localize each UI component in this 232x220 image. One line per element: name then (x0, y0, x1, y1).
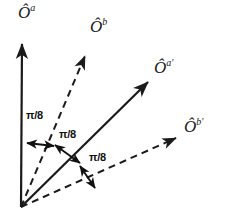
vector-label-o-b-prime-sup: b′ (196, 116, 203, 127)
vector-label-o-a-base: Ô (18, 3, 30, 22)
vector-angle-diagram: Ôa Ôb Ôa′ Ôb′ π/8 π/8 π/8 (0, 0, 232, 220)
vector-label-o-a-prime-sup: a′ (166, 57, 173, 68)
vector-line-o-a (21, 44, 22, 207)
angle-label-1: π/8 (26, 110, 43, 121)
vector-label-o-a-sup: a (30, 2, 35, 13)
vector-label-o-a: Ôa (18, 3, 35, 21)
vector-label-o-b-sup: b (102, 16, 107, 27)
vector-label-o-b-prime-base: Ô (184, 117, 196, 136)
vector-label-o-b-prime: Ôb′ (184, 117, 203, 135)
angle-label-2: π/8 (59, 129, 76, 140)
angle-label-3: π/8 (89, 152, 106, 163)
angle-arrow-3 (80, 166, 95, 188)
angle-arrow-1 (27, 143, 54, 146)
vector-line-o-b-prime (21, 138, 176, 207)
vector-label-o-b-base: Ô (90, 17, 102, 36)
vector-label-o-b: Ôb (90, 17, 107, 35)
vector-label-o-a-prime-base: Ô (154, 58, 166, 77)
vector-label-o-a-prime: Ôa′ (154, 58, 173, 76)
